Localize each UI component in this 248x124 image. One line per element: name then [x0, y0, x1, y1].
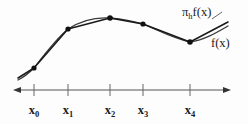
node-marker-x2 [107, 15, 113, 21]
node-marker-x0 [31, 65, 36, 70]
function-label: f(x) [211, 36, 230, 50]
node-marker-x1 [65, 26, 70, 31]
axis-arrow-right-icon [223, 87, 231, 93]
smooth-function-curve [18, 18, 228, 80]
figure-container: x0 x1 x2 x3 x4 πhf(x) f(x) [0, 0, 248, 124]
tick-label-x2: x2 [105, 103, 116, 119]
node-marker-x3 [140, 21, 145, 26]
x-axis-group [13, 84, 231, 96]
interpolant-label: πhf(x) [182, 5, 211, 21]
tick-label-x1: x1 [63, 103, 74, 119]
tick-label-x3: x3 [138, 103, 149, 119]
node-marker-x4 [187, 39, 193, 45]
tick-labels-group: x0 x1 x2 x3 x4 [29, 103, 196, 119]
interpolation-figure: x0 x1 x2 x3 x4 πhf(x) f(x) [0, 0, 248, 124]
tick-label-x4: x4 [185, 103, 196, 119]
tick-label-x0: x0 [29, 103, 40, 119]
axis-arrow-left-icon [13, 87, 21, 93]
interpolant-label-leader [212, 12, 222, 19]
